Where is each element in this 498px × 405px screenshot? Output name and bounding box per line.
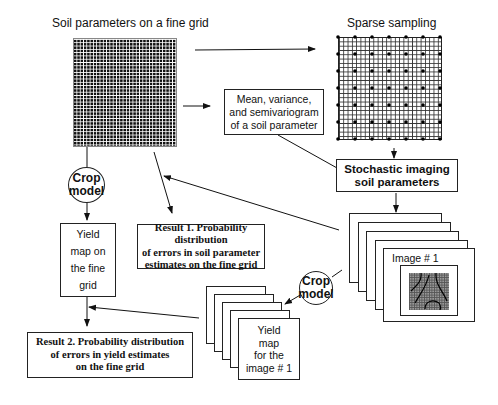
crop-model-right-line-2: model <box>298 288 333 301</box>
result1-line-2: of errors in soil parameter <box>142 247 260 260</box>
result-2-box: Result 2. Probability distribution of er… <box>27 332 193 378</box>
yield-stack-line-4: image # 1 <box>246 362 292 375</box>
image-1-label: Image # 1 <box>392 252 439 264</box>
result2-line-3: on the fine grid <box>76 361 145 374</box>
sample-points <box>334 33 446 144</box>
crop-model-left-line-2: model <box>69 185 104 198</box>
yield-stack-line-3: for the <box>254 349 284 362</box>
yield-fine-line-4: grid <box>79 277 97 294</box>
crop-model-left: Crop model <box>68 167 105 203</box>
result1-line-3: estimates on the fine grid <box>145 259 258 272</box>
yield-fine-line-1: Yield <box>77 226 100 243</box>
stats-line-1: Mean, variance, <box>237 93 312 106</box>
stochastic-imaging-box: Stochastic imaging soil parameters <box>336 159 458 192</box>
stats-line-3: of a soil parameter <box>231 119 318 132</box>
soil-streams-icon <box>409 273 449 310</box>
image-1-frame <box>400 265 458 316</box>
sparse-sampling-title: Sparse sampling <box>347 16 436 30</box>
stats-box: Mean, variance, and semivariogram of a s… <box>224 89 324 135</box>
yield-fine-line-2: map on <box>70 243 105 260</box>
result2-line-2: of errors in yield estimates <box>51 349 170 362</box>
stats-line-2: and semivariogram <box>229 106 318 119</box>
fine-grid <box>73 38 177 147</box>
yield-fine-line-3: the fine <box>71 260 105 277</box>
stochastic-line-1: Stochastic imaging <box>344 163 449 176</box>
yield-map-image-1-box: Yield map for the image # 1 <box>238 318 300 380</box>
image-card-1: Image # 1 <box>383 248 475 322</box>
stochastic-line-2: soil parameters <box>354 176 439 189</box>
yield-stack-line-2: map <box>259 337 279 350</box>
yield-map-fine-box: Yield map on the fine grid <box>60 223 116 297</box>
result-1-box: Result 1. Probability distribution of er… <box>137 224 265 269</box>
fine-grid-title: Soil parameters on a fine grid <box>52 16 209 30</box>
result2-line-1: Result 2. Probability distribution <box>36 336 184 349</box>
workflow-diagram: Soil parameters on a fine grid Sparse sa… <box>0 0 498 405</box>
crop-model-right: Crop model <box>299 271 333 305</box>
result1-line-1: Result 1. Probability distribution <box>138 222 264 247</box>
yield-stack-line-1: Yield <box>258 324 281 337</box>
